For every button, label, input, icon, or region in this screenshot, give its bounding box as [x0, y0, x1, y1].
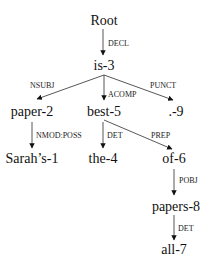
- tree-canvas: DECLNSUBJACOMPPUNCTNMOD:POSSDETPREPPOBJD…: [0, 0, 210, 262]
- edge-label: DECL: [108, 39, 129, 48]
- edge-pobj-papers-8: POBJ: [174, 169, 198, 195]
- node-of-6: of-6: [162, 151, 185, 166]
- node-the-4: the-4: [89, 151, 118, 166]
- edge-det-all-7: DET: [174, 215, 194, 240]
- edge-label: PREP: [151, 131, 171, 140]
- edge-label: ACOMP: [108, 90, 137, 99]
- node-is-3: is-3: [94, 58, 115, 73]
- node-all-7: all-7: [161, 242, 187, 257]
- edge-label: DET: [107, 131, 123, 140]
- edge-nsubj-paper-2: NSUBJ: [30, 75, 104, 99]
- edge-decl-is-3: DECL: [103, 29, 129, 55]
- edge-det-the-4: DET: [103, 122, 123, 148]
- edge-nmod-poss-sarahs-1: NMOD:POSS: [32, 122, 82, 148]
- node-root: Root: [90, 13, 117, 28]
- edge-label: NSUBJ: [30, 81, 54, 90]
- dependency-tree-diagram: DECLNSUBJACOMPPUNCTNMOD:POSSDETPREPPOBJD…: [0, 0, 210, 262]
- edge-label: POBJ: [179, 176, 198, 185]
- edge-label: DET: [178, 224, 194, 233]
- edge-label: NMOD:POSS: [36, 131, 82, 140]
- node-punct-9: .-9: [168, 104, 183, 119]
- edge-label: PUNCT: [150, 81, 176, 90]
- edge-acomp-best-5: ACOMP: [104, 75, 137, 100]
- node-best-5: best-5: [87, 104, 121, 119]
- node-paper-2: paper-2: [11, 104, 53, 119]
- node-sarahs-1: Sarah’s-1: [6, 151, 59, 166]
- node-papers-8: papers-8: [152, 199, 200, 214]
